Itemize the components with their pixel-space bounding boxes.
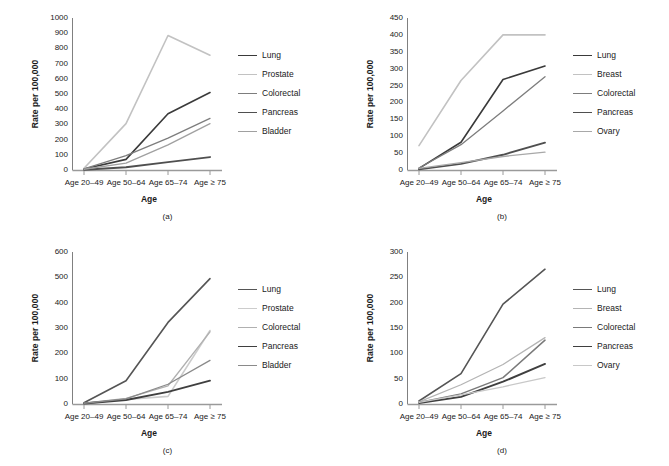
series-line [419,364,545,403]
y-axis-tick-labels: 0100200300400500600 [36,252,68,404]
y-tick-label: 400 [55,105,68,113]
y-tick-label: 600 [55,75,68,83]
legend-color-swatch [238,55,257,56]
legend-item[interactable]: Prostate [238,299,300,318]
legend-item[interactable]: Lung [238,46,300,65]
x-tick-label: Age 50–64 [442,179,481,187]
legend-label: Colorectal [262,323,300,332]
y-tick-label: 0 [64,166,68,174]
legend-label: Bladder [262,127,291,136]
plot-area [72,18,226,178]
y-axis-tick-labels: 050100150200250300 [371,252,403,404]
x-axis-title: Age [407,194,561,204]
legend-item[interactable]: Pancreas [238,337,300,356]
chart-panel-c: Rate per 100,0000100200300400500600Age 2… [0,234,335,466]
legend-label: Pancreas [262,108,298,117]
y-axis-tick-labels: 050100150200250300350400450 [371,18,403,170]
legend-label: Pancreas [597,108,633,117]
chart-panel-b: Rate per 100,000050100150200250300350400… [335,0,669,234]
y-tick-label: 250 [390,273,403,281]
x-tick-label: Age 65–74 [484,413,523,421]
y-tick-label: 350 [390,48,403,56]
y-tick-label: 400 [55,299,68,307]
y-tick-label: 450 [390,14,403,22]
legend-item[interactable]: Colorectal [238,318,300,337]
series-line [84,92,210,169]
legend-color-swatch [238,327,257,328]
legend-color-swatch [573,131,592,132]
plot-area [72,252,226,412]
legend-label: Prostate [262,70,294,79]
y-tick-label: 200 [390,299,403,307]
chart-panel-a: Rate per 100,000010020030040050060070080… [0,0,335,234]
y-tick-label: 500 [55,273,68,281]
panel-caption: (a) [0,212,335,221]
y-tick-label: 300 [390,248,403,256]
legend-item[interactable]: Ovary [573,122,635,141]
legend-item[interactable]: Breast [573,299,635,318]
legend-color-swatch [238,74,257,75]
legend-item[interactable]: Pancreas [573,337,635,356]
legend-item[interactable]: Pancreas [238,103,300,122]
plot-area [407,252,561,412]
x-tick-label: Age 50–64 [107,179,146,187]
figure-grid: Rate per 100,000010020030040050060070080… [0,0,669,466]
legend-label: Lung [262,285,281,294]
legend: LungProstateColorectalPancreasBladder [238,280,300,375]
legend-label: Colorectal [262,89,300,98]
legend-color-swatch [238,112,257,113]
x-axis-title: Age [407,428,561,438]
legend-item[interactable]: Pancreas [573,103,635,122]
series-line [84,279,210,403]
legend-item[interactable]: Colorectal [573,84,635,103]
legend-label: Ovary [597,127,620,136]
legend-label: Bladder [262,361,291,370]
y-tick-label: 200 [55,136,68,144]
legend-item[interactable]: Breast [573,65,635,84]
y-tick-label: 100 [55,151,68,159]
y-tick-label: 300 [55,120,68,128]
x-tick-label: Age 65–74 [484,179,523,187]
legend-color-swatch [238,289,257,290]
x-tick-label: Age 20–49 [400,179,439,187]
plot-area [407,18,561,178]
y-tick-label: 0 [399,166,403,174]
y-tick-label: 600 [55,248,68,256]
legend-item[interactable]: Lung [573,280,635,299]
legend-item[interactable]: Ovary [573,356,635,375]
legend-item[interactable]: Lung [573,46,635,65]
y-tick-label: 700 [55,60,68,68]
legend-color-swatch [573,93,592,94]
x-axis-title: Age [72,194,226,204]
legend-color-swatch [573,346,592,347]
legend-label: Lung [597,51,616,60]
panel-caption: (b) [335,212,669,221]
legend-color-swatch [238,365,257,366]
legend-item[interactable]: Prostate [238,65,300,84]
y-tick-label: 500 [55,90,68,98]
y-tick-label: 150 [390,324,403,332]
y-tick-label: 250 [390,82,403,90]
legend-color-swatch [573,289,592,290]
legend-label: Breast [597,304,622,313]
legend-item[interactable]: Colorectal [573,318,635,337]
y-axis-tick-labels: 01002003004005006007008009001000 [36,18,68,170]
legend-item[interactable]: Lung [238,280,300,299]
legend-label: Ovary [597,361,620,370]
legend-item[interactable]: Colorectal [238,84,300,103]
y-tick-label: 100 [390,349,403,357]
legend-label: Colorectal [597,89,635,98]
legend-item[interactable]: Bladder [238,122,300,141]
y-tick-label: 100 [390,132,403,140]
legend-label: Lung [262,51,281,60]
y-tick-label: 50 [394,375,403,383]
y-tick-label: 1000 [50,14,68,22]
legend-item[interactable]: Bladder [238,356,300,375]
legend-color-swatch [573,327,592,328]
series-line [419,35,545,146]
y-tick-label: 900 [55,29,68,37]
legend-label: Prostate [262,304,294,313]
x-tick-label: Age 50–64 [442,413,481,421]
y-tick-label: 50 [394,149,403,157]
y-tick-label: 0 [64,400,68,408]
